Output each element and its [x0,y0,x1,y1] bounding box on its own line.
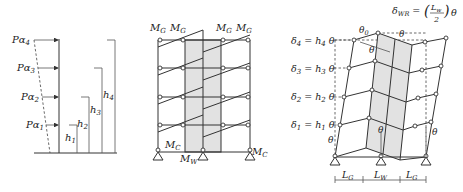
load-distribution-panel: Pα4 Pα3 Pα2 Pα1 h1 h2 h3 h4 [11,34,117,153]
hinge-mechanism-panel: MG MG MG MG MC MW MC [149,22,268,166]
theta-column-right-label: θ [432,127,438,137]
displacement-labels: δ4 = h4 θ δ3 = h3 θ δ2 = h2 θ δ1 = h1 θ [291,35,335,132]
height-label-2: h2 [77,118,88,131]
disp-label-2: δ2 = h2 θ [291,91,335,104]
uplift-denominator: 2 [433,15,439,24]
height-label-1: h1 [65,132,76,145]
force-label-2: Pα2 [20,91,39,104]
theta-column-left-label: θ [328,135,334,145]
paren-left: ( [424,3,430,19]
support-left-icon [330,157,340,165]
force-label-1: Pα1 [25,119,44,132]
height-label-4: h4 [103,89,114,102]
label-mw: MW [179,153,198,166]
uplift-numerator: Lw [430,3,442,13]
span-dimensions: LG LW LG [335,169,426,183]
label-mg-1: MG [149,22,166,35]
theta0-label: θ0 [359,25,369,37]
structural-mechanism-diagram: Pα4 Pα3 Pα2 Pα1 h1 h2 h3 h4 [0,0,463,192]
pin-supports [153,152,255,160]
label-mc-left: MC [164,139,181,152]
height-labels: h1 h2 h3 h4 [65,89,114,145]
right-column-deformed [426,40,446,157]
uplift-theta: θ [451,7,457,18]
force-label-4: Pα4 [11,34,30,47]
disp-label-4: δ4 = h4 θ [291,35,335,48]
theta-top-label: θ [399,29,405,39]
uplift-lhs: δWR = [392,5,420,18]
support-left-icon [153,152,163,160]
height-label-3: h3 [90,104,101,117]
support-wall-icon [376,157,386,165]
disp-label-1: δ1 = h1 θ [291,119,335,132]
label-mg-2: MG [169,22,186,35]
disp-label-3: δ3 = h3 θ [291,63,335,76]
label-mg-4: MG [235,22,252,35]
support-right-icon [421,157,431,165]
support-wall-icon [198,152,208,160]
displacement-leaders [334,40,352,125]
wall-uplift-formula: δWR = ( Lw 2 ) θ [392,3,457,24]
force-arrows [34,40,58,125]
force-labels: Pα4 Pα3 Pα2 Pα1 [11,34,44,132]
theta-wall-base-label: θ [378,125,384,135]
theta-wall-label: θ [369,45,375,55]
label-mg-3: MG [215,22,232,35]
force-label-3: Pα3 [16,62,35,75]
deformed-shape-panel: δ4 = h4 θ δ3 = h3 θ δ2 = h2 θ δ1 = h1 θ … [291,3,457,183]
paren-right: ) [443,3,449,19]
